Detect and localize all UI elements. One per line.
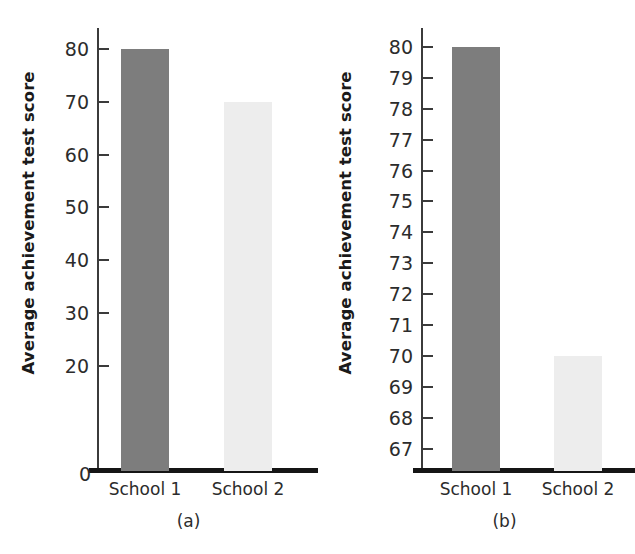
x-tick-label-school-1: School 1 [440, 481, 513, 498]
y-tick-mark [99, 259, 109, 261]
y-axis-title-b: Average achievement test score [336, 105, 355, 375]
plot-area-b: 6768697071727374757677787980 [421, 28, 629, 471]
y-tick-mark [423, 231, 433, 233]
y-tick-mark [423, 386, 433, 388]
y-tick-mark [423, 46, 433, 48]
y-tick-mark [423, 139, 433, 141]
y-tick-label: 30 [65, 303, 89, 322]
y-tick-mark [423, 170, 433, 172]
y-tick-label: 67 [389, 440, 413, 459]
y-tick-label: 70 [389, 347, 413, 366]
y-tick-mark [423, 200, 433, 202]
panel-caption-a: (a) [0, 513, 317, 530]
x-tick-label-school-1: School 1 [109, 481, 182, 498]
y-tick-mark [99, 206, 109, 208]
y-tick-label: 77 [389, 130, 413, 149]
y-tick-label: 80 [65, 40, 89, 59]
y-tick-label: 76 [389, 161, 413, 180]
y-tick-label: 20 [65, 356, 89, 375]
bar-school-2 [554, 356, 602, 471]
y-axis-line-a [97, 28, 99, 471]
chart-panel-b: Average achievement test score 676869707… [317, 0, 634, 554]
chart-panel-a: Average achievement test score 203040506… [0, 0, 317, 554]
y-axis-title-a: Average achievement test score [19, 105, 38, 375]
y-tick-label: 73 [389, 254, 413, 273]
y-tick-mark [423, 77, 433, 79]
y-tick-label: 71 [389, 316, 413, 335]
y-tick-label: 75 [389, 192, 413, 211]
y-tick-label: 40 [65, 251, 89, 270]
y-tick-mark [423, 108, 433, 110]
panel-caption-b: (b) [317, 513, 634, 530]
y-tick-mark [99, 365, 109, 367]
y-tick-mark [99, 101, 109, 103]
y-tick-mark [423, 417, 433, 419]
y-tick-mark [423, 262, 433, 264]
y-tick-label: 74 [389, 223, 413, 242]
y-tick-mark [99, 312, 109, 314]
y-tick-mark [423, 355, 433, 357]
y-axis-line-b [421, 28, 423, 471]
plot-area-a: 20304050607080 0 [97, 28, 312, 471]
y-tick-label: 70 [65, 92, 89, 111]
y-tick-label: 80 [389, 37, 413, 56]
x-tick-label-school-2: School 2 [212, 481, 285, 498]
y-tick-mark [423, 293, 433, 295]
y-tick-label: 79 [389, 68, 413, 87]
y-tick-mark [423, 324, 433, 326]
y-tick-mark [99, 154, 109, 156]
bar-school-2 [224, 102, 272, 471]
y-tick-mark [423, 448, 433, 450]
y-tick-mark [99, 48, 109, 50]
bar-school-1 [452, 47, 500, 471]
y-tick-label: 72 [389, 285, 413, 304]
x-tick-label-school-2: School 2 [542, 481, 615, 498]
y-tick-label: 60 [65, 145, 89, 164]
y-tick-label: 78 [389, 99, 413, 118]
bar-school-1 [121, 49, 169, 471]
y-tick-label: 69 [389, 378, 413, 397]
y-tick-label-zero-a: 0 [79, 465, 91, 484]
y-tick-label: 50 [65, 198, 89, 217]
y-tick-label: 68 [389, 409, 413, 428]
